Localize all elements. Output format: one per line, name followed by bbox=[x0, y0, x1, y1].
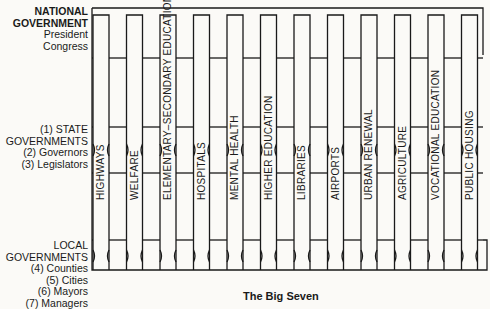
program-label-7: LIBRARIES bbox=[296, 145, 307, 200]
diagram-caption: The Big Seven bbox=[243, 290, 319, 302]
program-label-9: URBAN RENEWAL bbox=[363, 109, 374, 200]
program-label-12: PUBLIC HOUSING bbox=[464, 110, 475, 200]
program-label-10: AGRICULTURE bbox=[397, 126, 408, 200]
program-label-8: AIRPORTS bbox=[330, 147, 341, 200]
program-label-4: HOSPITALS bbox=[196, 142, 207, 200]
program-label-2: WELFARE bbox=[129, 150, 140, 200]
program-label-3: ELEMENTARY–SECONDARY EDUCATION bbox=[162, 0, 173, 200]
program-label-6: HIGHER EDUCATION bbox=[263, 95, 274, 200]
program-label-5: MENTAL HEALTH bbox=[229, 115, 240, 200]
program-label-1: HIGHWAYS bbox=[95, 144, 106, 200]
fence-lines bbox=[92, 8, 487, 270]
program-label-11: VOCATIONAL EDUCATION bbox=[430, 70, 441, 200]
